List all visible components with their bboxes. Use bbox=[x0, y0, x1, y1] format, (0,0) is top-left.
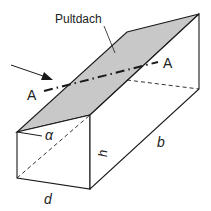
angle-label: α bbox=[45, 127, 54, 143]
diagram-canvas: Pultdach A A α h b d bbox=[0, 0, 211, 211]
height-label: h bbox=[95, 150, 110, 157]
length-label: b bbox=[157, 134, 165, 150]
arrow-head-icon bbox=[41, 72, 53, 80]
pultdach-diagram: Pultdach A A α h b d bbox=[0, 0, 211, 211]
section-label-right: A bbox=[163, 55, 173, 71]
depth-label: d bbox=[44, 191, 53, 207]
roof-type-label: Pultdach bbox=[55, 12, 102, 26]
section-label-left: A bbox=[27, 87, 37, 103]
view-arrow bbox=[11, 65, 46, 77]
